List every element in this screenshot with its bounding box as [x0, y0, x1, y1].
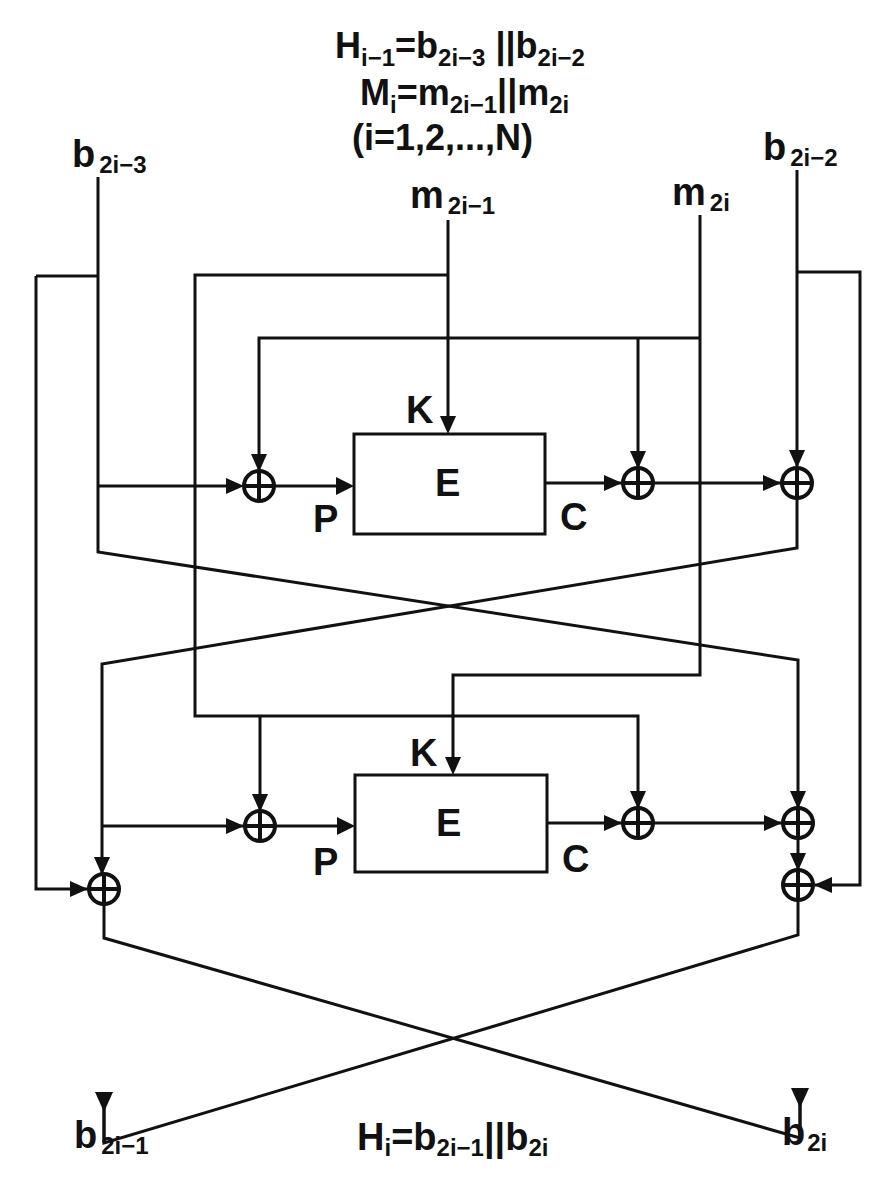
- arrowhead-icon: [789, 450, 805, 468]
- circled-plus-icon: [244, 471, 274, 501]
- arrowhead-icon: [814, 877, 832, 893]
- plaintext-label: P: [313, 498, 338, 540]
- header-line1-main: H: [335, 25, 361, 66]
- footer-formula: Hi=b2i−1||b2i: [357, 1116, 548, 1161]
- arrowhead-icon: [336, 477, 354, 495]
- header-formulas: Hi−1=b2i−3 ||b2i−2 Mi=m2i−1||m2i (i=1,2,…: [335, 25, 585, 158]
- output-label-b-2i-1: b2i−1: [74, 1114, 149, 1159]
- arrowhead-icon: [337, 817, 355, 835]
- input-label-m-2i: m2i: [672, 171, 730, 216]
- encryption-block-upper: E K P C: [313, 389, 587, 540]
- arrowhead-icon: [226, 478, 244, 494]
- input-label-b-2i-2: b2i−2: [763, 126, 838, 171]
- arrowhead-icon: [791, 1088, 809, 1108]
- svg-text:Mi=m2i−1||m2i: Mi=m2i−1||m2i: [360, 72, 569, 118]
- arrowheads: [70, 416, 832, 1112]
- arrowhead-icon: [70, 881, 88, 897]
- circled-plus-icon: [623, 468, 653, 498]
- circled-plus-icon: [623, 808, 653, 838]
- arrowhead-icon: [445, 757, 461, 775]
- arrowhead-icon: [226, 818, 244, 834]
- hash-function-diagram: Hi−1=b2i−3 ||b2i−2 Mi=m2i−1||m2i (i=1,2,…: [0, 0, 888, 1186]
- block-label: E: [435, 462, 460, 504]
- circled-plus-icon: [245, 811, 275, 841]
- header-line2-main: M: [360, 72, 390, 113]
- circled-plus-icon: [782, 468, 812, 498]
- input-label-m-2i-1: m2i−1: [410, 174, 495, 219]
- key-label: K: [410, 732, 438, 774]
- arrowhead-icon: [604, 815, 622, 831]
- block-label: E: [436, 802, 461, 844]
- header-index-range: (i=1,2,...,N): [352, 117, 533, 158]
- svg-text:Hi−1=b2i−3 ||b2i−2: Hi−1=b2i−3 ||b2i−2: [335, 25, 585, 71]
- encryption-block-lower: E K P C: [313, 732, 589, 883]
- ciphertext-label: C: [560, 496, 587, 538]
- arrowhead-icon: [440, 416, 456, 434]
- circled-plus-icon: [783, 808, 813, 838]
- wires: [36, 170, 860, 1143]
- arrowhead-icon: [604, 475, 622, 491]
- plaintext-label: P: [313, 841, 338, 883]
- circled-plus-icon: [783, 870, 813, 900]
- arrowhead-icon: [763, 475, 781, 491]
- arrowhead-icon: [764, 815, 782, 831]
- input-label-b-2i-3: b2i−3: [72, 133, 147, 178]
- circled-plus-icon: [89, 874, 119, 904]
- output-label-b-2i: b2i: [782, 1111, 827, 1156]
- ciphertext-label: C: [562, 838, 589, 880]
- arrowhead-icon: [95, 1092, 113, 1112]
- key-label: K: [406, 389, 434, 431]
